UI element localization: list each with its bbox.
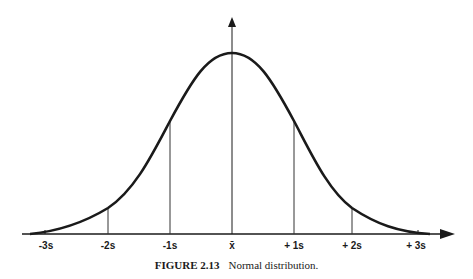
bell-curve [30,53,430,234]
tick-label-mean: x̄ [229,240,235,251]
caption-text: Normal distribution. [228,259,318,271]
tick-label-plus-3s: + 3s [406,240,426,251]
tick-label-minus-3s: -3s [39,240,53,251]
x-axis-arrow-icon [440,229,455,239]
tick-label-minus-2s: -2s [101,240,115,251]
tick-label-minus-1s: -1s [163,240,177,251]
normal-distribution-chart [0,0,473,279]
figure-label: FIGURE 2.13 [155,259,220,271]
y-axis-arrow-icon [228,17,236,27]
figure-caption: FIGURE 2.13Normal distribution. [0,259,473,271]
tick-label-plus-1s: + 1s [284,240,304,251]
tick-label-plus-2s: + 2s [342,240,362,251]
